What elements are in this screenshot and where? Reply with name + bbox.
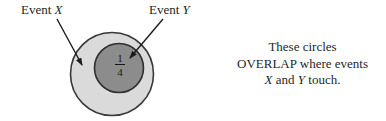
event-y-label: Event Y (149, 3, 190, 17)
event-x-label-text: Event (21, 2, 55, 17)
caption-text: These circles OVERLAP where events X and… (219, 39, 386, 89)
event-x-symbol: X (55, 2, 63, 17)
event-x-arrow (57, 19, 82, 65)
event-y-label-text: Event (149, 2, 183, 17)
caption-x-symbol: X (265, 72, 273, 87)
caption-line-3-end: touch. (305, 72, 340, 87)
event-y-symbol: Y (183, 2, 190, 17)
caption-line-2: OVERLAP where events (219, 56, 386, 73)
caption-line-3-mid: and (273, 72, 298, 87)
probability-fraction: 1 4 (113, 52, 127, 78)
event-x-label: Event X (21, 3, 63, 17)
caption-y-symbol: Y (298, 72, 305, 87)
fraction-numerator: 1 (115, 52, 125, 65)
caption-line-1: These circles (219, 39, 386, 56)
overlapping-events-figure: Event X Event Y 1 4 These circles OVERLA… (0, 0, 386, 121)
fraction-denominator: 4 (113, 66, 127, 78)
caption-line-3: X and Y touch. (219, 72, 386, 89)
